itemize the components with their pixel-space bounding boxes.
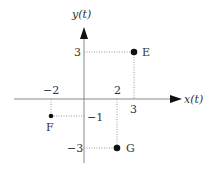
guide-lines: [51, 52, 134, 148]
tick-label-y-neg3: −3: [67, 142, 83, 155]
x-axis-label: x(t): [184, 93, 203, 106]
x-axis-arrow-icon: [170, 95, 182, 103]
point-label-e: E: [142, 46, 150, 59]
tick-label-x-neg2: −2: [43, 84, 59, 97]
y-axis-arrow-icon: [80, 27, 88, 39]
coordinate-diagram: x(t) y(t) −2 2 3 3 −1 −3 E F G: [0, 0, 211, 172]
tick-label-y-neg1: −1: [87, 111, 103, 124]
point-f: [49, 114, 54, 119]
point-label-f: F: [46, 121, 54, 134]
point-g: [114, 145, 121, 152]
y-axis-label: y(t): [71, 8, 91, 21]
tick-label-x-3: 3: [130, 103, 137, 116]
tick-label-y-3: 3: [74, 46, 81, 59]
point-e: [131, 49, 138, 56]
tick-label-x-2: 2: [114, 84, 121, 97]
point-label-g: G: [126, 142, 135, 155]
